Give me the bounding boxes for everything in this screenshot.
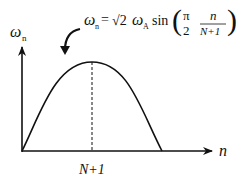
formula-frac2-den: N+1 xyxy=(199,25,220,37)
formula-frac2-num: n xyxy=(210,8,217,23)
pointer-arrowhead-icon xyxy=(60,46,70,55)
y-axis-label: ω xyxy=(10,23,21,40)
formula-frac1-num: π xyxy=(183,8,190,23)
formula-omega-subscript: A xyxy=(143,22,149,31)
formula-left-paren: ( xyxy=(172,3,182,37)
formula-lhs-subscript: n xyxy=(95,22,99,31)
formula-frac1-den: 2 xyxy=(183,23,190,38)
formula-omega: ω xyxy=(132,11,143,28)
formula-equals: = xyxy=(101,12,109,27)
formula-lhs: ω xyxy=(84,11,95,28)
formula-right-paren: ) xyxy=(227,3,237,37)
formula: ω n = √2 ω A sin ( π 2 n N+1 ) xyxy=(84,3,237,38)
x-axis-label: n xyxy=(219,142,227,159)
diagram-canvas: ω n n N+1 ω n = √2 ω A sin ( π 2 n N+1 ) xyxy=(0,0,241,180)
y-axis-label-subscript: n xyxy=(22,33,27,43)
peak-tick-label: N+1 xyxy=(78,162,105,177)
formula-sin: sin xyxy=(152,13,168,28)
formula-sqrt: √2 xyxy=(112,13,127,28)
